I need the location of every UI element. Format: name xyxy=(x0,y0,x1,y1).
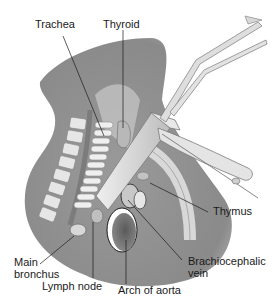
thyroid xyxy=(117,121,130,148)
label-brachiocephalic-line1: Brachiocephalic xyxy=(188,255,266,267)
main-bronchus xyxy=(70,224,86,236)
label-arch-of-aorta: Arch of aorta xyxy=(118,284,181,296)
arch-of-aorta xyxy=(112,213,136,251)
label-main-bronchus-line2: bronchus xyxy=(14,268,59,280)
anatomy-diagram: Trachea Thyroid Thymus Main bronchus Lym… xyxy=(0,0,278,299)
thymus xyxy=(137,172,149,180)
label-thyroid: Thyroid xyxy=(103,18,140,30)
label-brachiocephalic-line2: vein xyxy=(188,267,208,279)
label-main-bronchus-line1: Main xyxy=(14,256,38,268)
label-trachea: Trachea xyxy=(35,18,75,30)
label-lymph-node: Lymph node xyxy=(42,280,102,292)
lymph-node xyxy=(91,209,103,223)
label-thymus: Thymus xyxy=(213,205,252,217)
